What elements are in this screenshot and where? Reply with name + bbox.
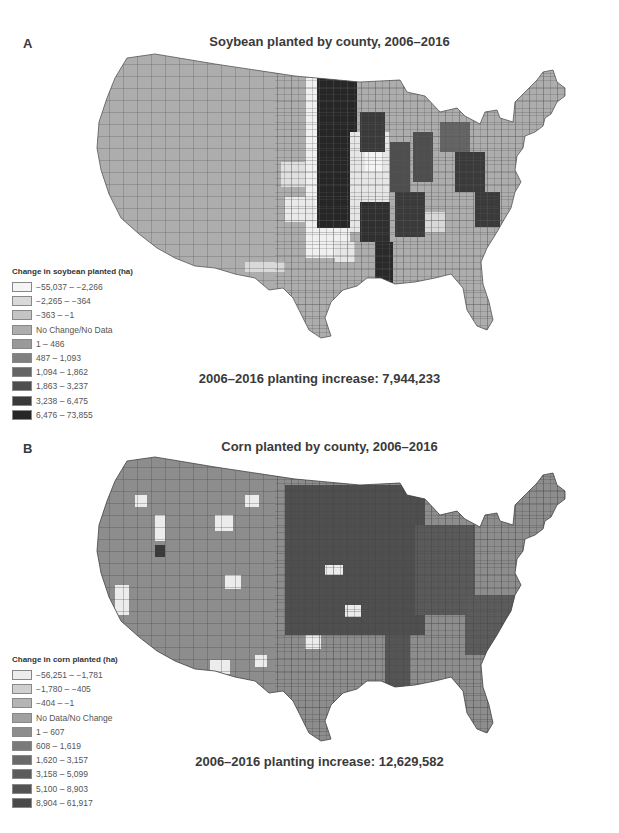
legend-swatch [12, 698, 32, 708]
corn-legend: Change in corn planted (ha) −56,251 – −1… [12, 655, 118, 810]
legend-swatch [12, 282, 32, 292]
legend-swatch [12, 741, 32, 751]
legend-item: 487 – 1,093 [12, 351, 133, 365]
legend-item: 8,904 – 61,917 [12, 796, 118, 810]
legend-swatch [12, 684, 32, 694]
legend-item: 608 – 1,619 [12, 739, 118, 753]
corn-county-map [95, 455, 605, 775]
soybean-map-title: Soybean planted by county, 2006–2016 [0, 34, 619, 49]
legend-item: No Data/No Change [12, 711, 118, 725]
legend-item: −55,037 – −2,266 [12, 280, 133, 294]
legend-item: 3,238 – 6,475 [12, 394, 133, 408]
legend-swatch [12, 798, 32, 808]
corn-map-title: Corn planted by county, 2006–2016 [0, 439, 619, 454]
legend-item: −2,265 – −364 [12, 294, 133, 308]
legend-item: 6,476 – 73,855 [12, 408, 133, 422]
legend-swatch [12, 339, 32, 349]
legend-swatch [12, 670, 32, 680]
legend-item: −404 – −1 [12, 696, 118, 710]
legend-item: −1,780 – −405 [12, 682, 118, 696]
legend-swatch [12, 396, 32, 406]
legend-swatch [12, 784, 32, 794]
legend-item: −363 – −1 [12, 308, 133, 322]
legend-item: 5,100 – 8,903 [12, 782, 118, 796]
legend-item: −56,251 – −1,781 [12, 668, 118, 682]
legend-swatch [12, 310, 32, 320]
corn-panel: B Corn planted by county, 2006–2016 [0, 425, 619, 833]
legend-swatch [12, 769, 32, 779]
legend-item: 3,158 – 5,099 [12, 767, 118, 781]
legend-swatch [12, 325, 32, 335]
soybean-panel: A Soybean planted by county, 2006–2016 [0, 0, 619, 420]
legend-title: Change in soybean planted (ha) [12, 267, 133, 276]
legend-swatch [12, 353, 32, 363]
soybean-total-annotation: 2006–2016 planting increase: 7,944,233 [0, 371, 619, 386]
legend-item: 1 – 486 [12, 337, 133, 351]
legend-item: 1 – 607 [12, 725, 118, 739]
soybean-legend: Change in soybean planted (ha) −55,037 –… [12, 267, 133, 422]
soybean-county-map [95, 52, 605, 372]
legend-title: Change in corn planted (ha) [12, 655, 118, 664]
legend-swatch [12, 410, 32, 420]
corn-total-annotation: 2006–2016 planting increase: 12,629,582 [0, 754, 619, 769]
legend-item: No Change/No Data [12, 323, 133, 337]
legend-swatch [12, 296, 32, 306]
legend-swatch [12, 727, 32, 737]
legend-swatch [12, 713, 32, 723]
